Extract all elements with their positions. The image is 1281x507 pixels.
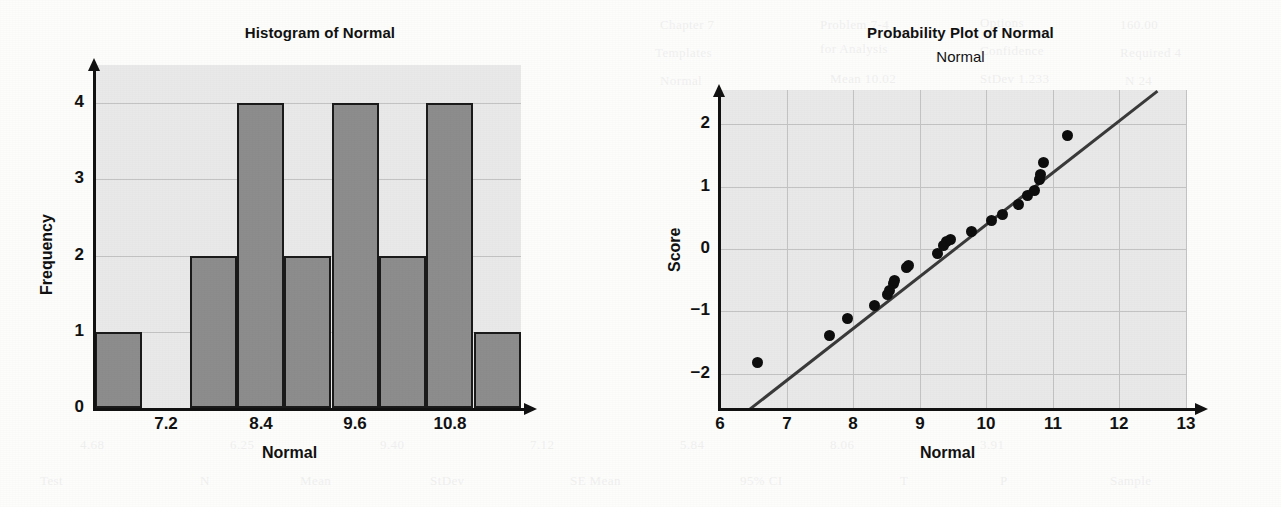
- probability-plot-y-axis-title: Score: [666, 228, 684, 272]
- histogram-bar: [190, 256, 237, 408]
- histogram-bar: [237, 103, 284, 408]
- probability-plot-panel: Probability Plot of Normal Normal −2−101…: [640, 0, 1281, 507]
- gridline-horizontal: [720, 311, 1186, 312]
- histogram-title: Histogram of Normal: [0, 24, 640, 41]
- scatter-point: [1062, 130, 1073, 141]
- scatter-point: [824, 330, 835, 341]
- probability-plot-y-tick-label: 1: [672, 176, 710, 196]
- scatter-point: [869, 300, 880, 311]
- probability-plot-y-tick-label: −2: [672, 363, 710, 383]
- histogram-y-axis-arrow: [88, 58, 100, 71]
- histogram-x-axis-title: Normal: [262, 444, 317, 462]
- scatter-point: [903, 260, 914, 271]
- histogram-y-tick-label: 4: [46, 92, 84, 112]
- probability-plot-x-tick-label: 7: [762, 414, 812, 434]
- histogram-y-axis: [93, 70, 96, 411]
- probability-plot-x-tick-label: 8: [828, 414, 878, 434]
- histogram-bar: [379, 256, 426, 408]
- probability-plot-subtitle: Normal: [640, 48, 1281, 65]
- probability-plot-y-axis: [718, 96, 721, 411]
- probability-plot-x-tick-label: 10: [961, 414, 1011, 434]
- probability-plot-y-tick-label: 2: [672, 113, 710, 133]
- histogram-panel: Histogram of Normal 01234 7.28.49.610.8 …: [0, 0, 640, 507]
- probability-plot-x-axis: [718, 408, 1196, 411]
- histogram-bar: [95, 332, 142, 408]
- histogram-x-tick-label: 7.2: [136, 414, 196, 434]
- gridline-vertical: [1186, 90, 1187, 408]
- histogram-x-tick-label: 9.6: [325, 414, 385, 434]
- histogram-y-tick-label: 1: [46, 321, 84, 341]
- probability-plot-x-axis-title: Normal: [920, 444, 975, 462]
- scatter-point: [997, 209, 1008, 220]
- page-root: Chapter 7Problem 7-4Options160.00Templat…: [0, 0, 1281, 507]
- gridline-horizontal: [720, 187, 1186, 188]
- scatter-point: [889, 275, 900, 286]
- histogram-x-tick-label: 8.4: [231, 414, 291, 434]
- histogram-y-tick-label: 0: [46, 397, 84, 417]
- probability-plot-title: Probability Plot of Normal: [640, 24, 1281, 41]
- probability-plot-x-tick-label: 13: [1161, 414, 1211, 434]
- scatter-point: [945, 234, 956, 245]
- probability-plot-x-tick-label: 12: [1094, 414, 1144, 434]
- histogram-bar: [332, 103, 379, 408]
- probability-plot-y-tick-label: −1: [672, 300, 710, 320]
- probability-plot-x-tick-label: 6: [695, 414, 745, 434]
- histogram-x-tick-label: 10.8: [420, 414, 480, 434]
- probability-plot-x-tick-label: 11: [1028, 414, 1078, 434]
- histogram-x-axis-arrow: [524, 403, 537, 415]
- scatter-point: [1035, 169, 1046, 180]
- histogram-x-axis: [93, 408, 525, 411]
- histogram-bar: [284, 256, 331, 408]
- histogram-bar: [426, 103, 473, 408]
- probability-plot-x-tick-label: 9: [895, 414, 945, 434]
- histogram-bar: [474, 332, 521, 408]
- histogram-y-tick-label: 3: [46, 168, 84, 188]
- probability-plot-x-axis-arrow: [1195, 403, 1208, 415]
- probability-plot-y-axis-arrow: [713, 84, 725, 97]
- histogram-y-axis-title: Frequency: [38, 214, 56, 295]
- scatter-point: [1013, 199, 1024, 210]
